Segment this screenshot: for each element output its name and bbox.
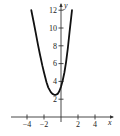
x-tick-label: −4 [23,120,32,129]
y-tick-label: 12 [49,6,57,15]
y-tick-label: 10 [49,24,57,33]
y-tick-label: 2 [53,95,57,104]
y-axis-arrow-icon [59,3,62,7]
x-tick-label: 4 [93,120,97,129]
y-tick-label: 4 [53,77,57,86]
y-tick-label: 8 [53,42,57,51]
axes: −4−224 24681012 x y [11,1,114,129]
x-tick-label: 2 [76,120,80,129]
y-tick-label: 6 [53,59,57,68]
chart-plot: −4−224 24681012 x y [0,0,120,136]
y-axis-label: y [63,1,68,10]
x-tick-label: −2 [40,120,49,129]
x-axis-label: x [107,118,112,127]
